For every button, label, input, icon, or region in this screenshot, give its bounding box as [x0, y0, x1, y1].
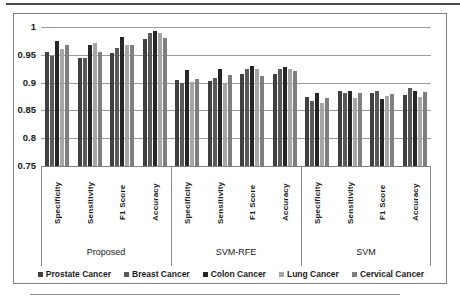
bar [343, 93, 347, 166]
bar [98, 52, 102, 166]
bar [223, 83, 227, 166]
bar [255, 69, 259, 166]
chart-area: 10.950.90.850.80.75 SpecificitySensitivi… [13, 13, 447, 284]
category-label: Sensitivity [74, 166, 107, 239]
bar [83, 58, 87, 166]
category-label: Specificity [171, 166, 204, 239]
bar [408, 88, 412, 166]
bar [130, 45, 134, 166]
bar [320, 103, 324, 166]
legend-label: Colon Cancer [211, 269, 266, 279]
group-label: SVM-RFE [171, 239, 301, 265]
plot-area [41, 27, 431, 166]
bar [348, 91, 352, 166]
bar [375, 91, 379, 166]
bar [390, 94, 394, 166]
bar [195, 79, 199, 166]
category-label: Accuracy [399, 166, 432, 239]
legend-label: Cervical Cancer [360, 269, 424, 279]
category-label: Accuracy [139, 166, 172, 239]
y-tick-label: 0.9 [14, 78, 36, 88]
bar [283, 67, 287, 166]
bar [310, 101, 314, 166]
bar [213, 78, 217, 166]
bar [358, 93, 362, 166]
bar [55, 41, 59, 166]
bar [143, 39, 147, 166]
gridline [41, 27, 431, 28]
bar [88, 45, 92, 166]
bar [293, 71, 297, 166]
bar [175, 80, 179, 166]
bar [315, 93, 319, 166]
y-tick-label: 0.95 [14, 50, 36, 60]
legend-label: Breast Cancer [132, 269, 190, 279]
category-label: F1 Score [366, 166, 399, 239]
bar [110, 53, 114, 166]
category-label: F1 Score [106, 166, 139, 239]
bar [50, 56, 54, 166]
bar [208, 81, 212, 166]
bar [288, 69, 292, 166]
legend-label: Lung Cancer [287, 269, 339, 279]
y-axis: 10.950.90.850.80.75 [14, 27, 38, 166]
bar [65, 45, 69, 166]
legend-item: Breast Cancer [124, 269, 190, 279]
bottom-divider-line [30, 294, 400, 295]
bar [78, 58, 82, 166]
category-label: Sensitivity [204, 166, 237, 239]
group-label: SVM [301, 239, 431, 265]
legend-item: Prostate Cancer [38, 269, 111, 279]
bar [180, 83, 184, 166]
y-tick-label: 0.8 [14, 133, 36, 143]
top-divider-line [6, 3, 460, 5]
chart-figure: 10.950.90.850.80.75 SpecificitySensitivi… [0, 0, 460, 299]
legend-marker [279, 272, 284, 277]
legend-item: Lung Cancer [279, 269, 339, 279]
bar [120, 37, 124, 166]
bar [153, 31, 157, 166]
category-label: Accuracy [269, 166, 302, 239]
bar [305, 97, 309, 167]
bar [125, 45, 129, 166]
category-label: F1 Score [236, 166, 269, 239]
bar [228, 75, 232, 166]
category-label: Specificity [301, 166, 334, 239]
bar [338, 91, 342, 166]
legend-marker [352, 272, 357, 277]
y-tick-label: 1 [14, 22, 36, 32]
category-label: Specificity [41, 166, 74, 239]
legend: Prostate CancerBreast CancerColon Cancer… [14, 266, 448, 282]
bar [158, 33, 162, 166]
bar [240, 74, 244, 166]
bar [245, 69, 249, 166]
bar [418, 97, 422, 167]
legend-item: Colon Cancer [203, 269, 266, 279]
category-axis: SpecificitySensitivityF1 ScoreAccuracySp… [41, 166, 431, 239]
bar [423, 92, 427, 167]
category-label: Sensitivity [334, 166, 367, 239]
legend-label: Prostate Cancer [46, 269, 111, 279]
bar [273, 74, 277, 166]
bar [190, 82, 194, 166]
y-tick-label: 0.85 [14, 105, 36, 115]
bar [250, 66, 254, 166]
bar [93, 43, 97, 166]
legend-marker [203, 272, 208, 277]
legend-item: Cervical Cancer [352, 269, 424, 279]
bar [185, 70, 189, 166]
bar [403, 95, 407, 166]
bar [60, 49, 64, 166]
bar [148, 33, 152, 166]
bar [260, 76, 264, 166]
bar [218, 69, 222, 166]
y-tick-label: 0.75 [14, 161, 36, 171]
bar [380, 99, 384, 166]
legend-marker [124, 272, 129, 277]
bar [278, 69, 282, 166]
bar [45, 52, 49, 166]
bar [385, 96, 389, 166]
bar [163, 38, 167, 166]
legend-marker [38, 272, 43, 277]
bar [325, 98, 329, 166]
